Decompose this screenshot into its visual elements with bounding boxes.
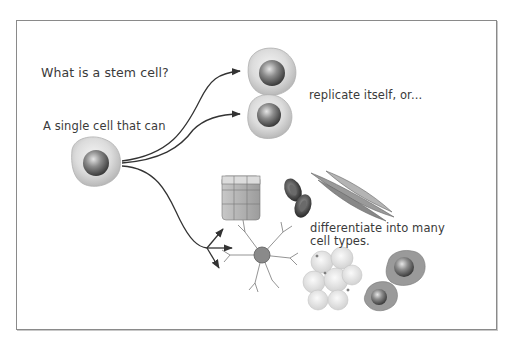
daughter-cell-1 xyxy=(248,48,296,95)
muscle-cells xyxy=(311,171,394,221)
replicate-label: replicate itself, or... xyxy=(309,89,422,102)
differentiate-label-line-2: cell types. xyxy=(310,235,370,248)
arrow-branch-down xyxy=(207,248,219,268)
stem-cell-diagram xyxy=(0,0,519,348)
daughter-cell-2 xyxy=(248,95,292,139)
arrow-branch-up xyxy=(207,229,223,248)
diagram-title: What is a stem cell? xyxy=(41,66,169,79)
arrows xyxy=(122,71,240,268)
intro-label: A single cell that can xyxy=(43,120,166,133)
stem-cell xyxy=(72,137,121,186)
neuron xyxy=(222,220,298,292)
epithelial-cells xyxy=(222,176,260,220)
arrow-to-differentiated xyxy=(122,166,207,248)
red-blood-cells xyxy=(281,176,315,220)
fat-cells xyxy=(303,247,362,310)
blood-cells xyxy=(364,250,425,310)
